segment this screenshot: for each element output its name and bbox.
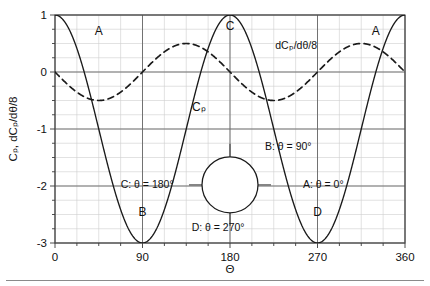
x-tick-label: 0 <box>52 251 58 263</box>
annotation-pointB: B <box>138 205 146 219</box>
x-tick-label: 270 <box>308 251 327 263</box>
cylinder-circle <box>202 157 258 213</box>
y-tick-label: 0 <box>41 66 47 78</box>
cp-distribution-chart: 090180270360 10-1-2-3 ABCDACₚdCₚ/dθ/8A: … <box>0 0 430 286</box>
y-tick-label: -3 <box>37 237 47 249</box>
annotation-legD: D: θ = 270° <box>192 221 245 233</box>
annotation-pointA1: A <box>95 24 103 38</box>
figure-container: 090180270360 10-1-2-3 ABCDACₚdCₚ/dθ/8A: … <box>0 0 430 286</box>
annotation-legC: C: θ = 180° <box>121 178 174 190</box>
x-tick-label: 90 <box>136 251 149 263</box>
y-axis-label: Cₚ, dCₚ/dθ/8 <box>7 97 19 162</box>
x-tick-label: 180 <box>220 251 239 263</box>
annotation-legA: A: θ = 0° <box>303 178 344 190</box>
annotation-cpLabel: Cₚ <box>192 100 206 114</box>
y-tick-label: -2 <box>37 180 47 192</box>
x-axis-label: Θ <box>226 263 235 275</box>
annotation-pointD: D <box>313 205 322 219</box>
y-tick-label: 1 <box>41 9 47 21</box>
annotation-legB: B: θ = 90° <box>265 140 312 152</box>
annotation-dcpLabel: dCₚ/dθ/8 <box>275 39 317 51</box>
annotation-pointC: C <box>226 19 235 33</box>
x-tick-label: 360 <box>395 251 414 263</box>
annotation-pointA2: A <box>372 24 380 38</box>
y-tick-label: -1 <box>37 123 47 135</box>
